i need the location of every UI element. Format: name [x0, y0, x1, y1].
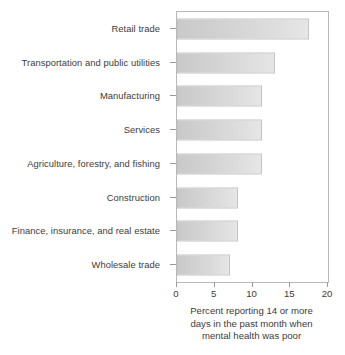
x-axis-caption-line: Percent reporting 14 or more	[176, 305, 327, 318]
bar	[177, 187, 238, 208]
y-tick-mark	[170, 264, 176, 265]
category-axis-labels: Retail tradeTransportation and public ut…	[0, 11, 168, 281]
bar	[177, 221, 238, 242]
x-tick-label: 15	[284, 288, 295, 299]
x-tick-mark	[214, 282, 215, 287]
plot-inner	[177, 12, 328, 282]
y-tick-mark	[170, 62, 176, 63]
x-axis-caption: Percent reporting 14 or moredays in the …	[176, 305, 327, 343]
bar	[177, 18, 309, 39]
x-tick-mark	[176, 282, 177, 287]
category-label: Transportation and public utilities	[22, 56, 160, 67]
y-tick-mark	[170, 129, 176, 130]
category-label: Retail trade	[111, 22, 160, 33]
bar	[177, 255, 230, 276]
bar	[177, 153, 262, 174]
category-label: Wholesale trade	[92, 259, 161, 270]
category-label: Finance, insurance, and real estate	[12, 225, 160, 236]
x-tick-mark	[252, 282, 253, 287]
x-tick-mark	[289, 282, 290, 287]
category-label: Manufacturing	[100, 90, 160, 101]
x-tick-label: 20	[322, 288, 333, 299]
category-label: Construction	[107, 191, 160, 202]
x-axis-caption-line: days in the past month when	[176, 318, 327, 331]
bar	[177, 52, 275, 73]
x-tick-label: 0	[173, 288, 178, 299]
category-label: Agriculture, forestry, and fishing	[27, 157, 160, 168]
plot-area	[176, 11, 329, 283]
y-tick-mark	[170, 95, 176, 96]
x-tick-label: 10	[246, 288, 257, 299]
category-label: Services	[124, 124, 160, 135]
x-tick-label: 5	[211, 288, 216, 299]
bar-chart: Retail tradeTransportation and public ut…	[0, 0, 345, 355]
y-tick-mark	[170, 197, 176, 198]
y-tick-mark	[170, 163, 176, 164]
bar	[177, 86, 262, 107]
bar	[177, 120, 262, 141]
x-axis-caption-line: mental health was poor	[176, 330, 327, 343]
x-tick-mark	[327, 282, 328, 287]
y-tick-mark	[170, 230, 176, 231]
y-tick-mark	[170, 28, 176, 29]
